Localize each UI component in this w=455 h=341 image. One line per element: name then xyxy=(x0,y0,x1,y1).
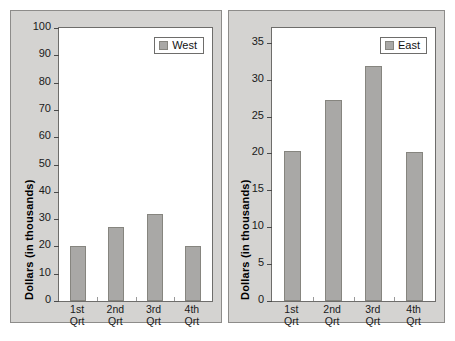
y-tick-label: 5 xyxy=(258,257,264,268)
legend-label-west: West xyxy=(172,40,197,51)
y-axis-title-west: Dollars (in thousands) xyxy=(23,179,35,300)
legend-swatch-icon xyxy=(385,41,394,50)
plot-area-east: East xyxy=(271,27,436,302)
y-tick-label: 25 xyxy=(252,110,264,121)
legend-swatch-icon xyxy=(159,41,168,50)
y-tick-label: 90 xyxy=(39,48,51,59)
y-tick xyxy=(54,301,59,302)
y-tick xyxy=(54,137,59,138)
x-category-label: 2nd Qrt xyxy=(96,303,134,327)
y-tick xyxy=(54,165,59,166)
bar xyxy=(108,227,124,301)
y-tick xyxy=(54,246,59,247)
y-tick-label: 10 xyxy=(39,267,51,278)
y-tick xyxy=(54,219,59,220)
bar xyxy=(185,246,201,301)
bar-group-west xyxy=(59,28,212,301)
x-category-label: 4th Qrt xyxy=(173,303,211,327)
chart-panel-west: Dollars (in thousands) West 010203040506… xyxy=(10,10,222,323)
x-category-label: 4th Qrt xyxy=(393,303,434,327)
y-axis-title-east: Dollars (in thousands) xyxy=(239,179,251,300)
y-tick xyxy=(267,153,272,154)
y-tick xyxy=(267,227,272,228)
bar xyxy=(365,66,382,301)
x-tick xyxy=(394,297,395,301)
x-tick xyxy=(136,297,137,301)
bar xyxy=(325,100,342,301)
x-category-label: 3rd Qrt xyxy=(135,303,173,327)
y-tick-label: 30 xyxy=(252,73,264,84)
y-tick xyxy=(267,301,272,302)
y-tick xyxy=(267,117,272,118)
x-tick xyxy=(313,297,314,301)
x-tick xyxy=(354,297,355,301)
y-tick-label: 20 xyxy=(39,239,51,250)
y-tick xyxy=(54,55,59,56)
bar-chart-comparison-figure: Dollars (in thousands) West 010203040506… xyxy=(0,0,455,341)
legend-east[interactable]: East xyxy=(380,37,427,54)
y-tick xyxy=(267,190,272,191)
y-tick xyxy=(267,80,272,81)
y-tick xyxy=(267,43,272,44)
y-tick-label: 10 xyxy=(252,220,264,231)
y-tick-label: 0 xyxy=(45,294,51,305)
bar xyxy=(70,246,86,301)
y-tick-label: 30 xyxy=(39,212,51,223)
y-tick-label: 35 xyxy=(252,36,264,47)
y-tick xyxy=(54,110,59,111)
bar xyxy=(406,152,423,301)
x-category-label: 1st Qrt xyxy=(58,303,96,327)
x-category-label: 3rd Qrt xyxy=(353,303,394,327)
y-tick-label: 50 xyxy=(39,158,51,169)
x-category-label: 2nd Qrt xyxy=(312,303,353,327)
y-tick-label: 80 xyxy=(39,76,51,87)
x-tick xyxy=(97,297,98,301)
legend-label-east: East xyxy=(398,40,420,51)
y-tick-label: 0 xyxy=(258,294,264,305)
y-tick xyxy=(54,83,59,84)
y-tick-label: 70 xyxy=(39,103,51,114)
y-tick-label: 15 xyxy=(252,183,264,194)
x-category-label: 1st Qrt xyxy=(271,303,312,327)
legend-west[interactable]: West xyxy=(154,37,204,54)
plot-area-west: West xyxy=(58,27,213,302)
y-tick-label: 60 xyxy=(39,130,51,141)
y-tick xyxy=(54,192,59,193)
y-tick-label: 40 xyxy=(39,185,51,196)
chart-panel-east: Dollars (in thousands) East 051015202530… xyxy=(228,10,445,323)
y-tick-label: 100 xyxy=(33,21,51,32)
y-tick xyxy=(267,264,272,265)
x-tick xyxy=(174,297,175,301)
y-tick-label: 20 xyxy=(252,146,264,157)
bar xyxy=(284,151,301,301)
y-tick xyxy=(54,274,59,275)
y-tick xyxy=(54,28,59,29)
bar-group-east xyxy=(272,28,435,301)
bar xyxy=(147,214,163,301)
